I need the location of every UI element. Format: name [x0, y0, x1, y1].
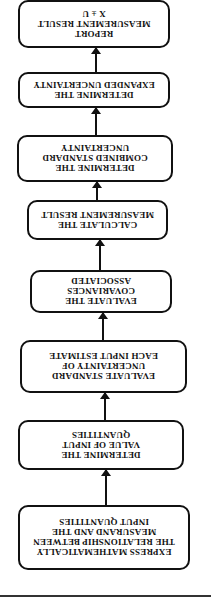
step-text: MEASUREMENT RESULT — [38, 19, 151, 29]
step-text: MEASUREMENT RESULT — [41, 210, 154, 220]
step-text: EVALUATE STANDARD — [52, 372, 155, 382]
step-determine-input-values: DETERMINE THE VALUE OF INPUT QUANTITIES — [18, 420, 184, 470]
step-text: DETERMINE THE — [54, 90, 133, 100]
step-evaluate-covariances: EVALUATE THE COVARIANCES ASSOCIATED — [30, 270, 172, 313]
step-text: VALUE OF INPUT — [62, 440, 140, 450]
step-text: EACH INPUT ESTIMATE — [49, 352, 158, 362]
flow-arrow — [95, 48, 97, 72]
flow-arrow — [95, 108, 97, 135]
step-text: THE RELATIONSHIP BETWEEN — [33, 538, 175, 548]
flow-arrow — [102, 313, 104, 340]
step-text: UNCERTAINTY OF — [62, 362, 145, 372]
step-text: MEASURAND AND THE — [52, 528, 156, 538]
step-report-result: REPORT MEASUREMENT RESULT X ± U — [18, 0, 170, 48]
flowchart-canvas: EXPRESS MATHEMATICALLY THE RELATIONSHIP … — [0, 0, 211, 605]
step-evaluate-standard-uncertainty: EVALUATE STANDARD UNCERTAINTY OF EACH IN… — [20, 340, 187, 393]
step-text: INPUT QUANTITIES — [59, 518, 149, 528]
step-text: EXPRESS MATHEMATICALLY — [37, 548, 172, 558]
step-expanded-uncertainty: DETERMINE THE EXPANDED UNCERTAINTY — [18, 72, 170, 108]
flow-arrow — [96, 182, 98, 200]
step-combined-uncertainty: DETERMINE THE COMBINED STANDARD UNCERTAI… — [17, 135, 173, 182]
step-text: X ± U — [82, 9, 105, 19]
step-text: DETERMINE THE — [61, 450, 140, 460]
step-text: CALCULATE THE — [58, 220, 138, 230]
step-text: EXPANDED UNCERTAINTY — [33, 80, 155, 90]
flow-arrow — [104, 393, 106, 420]
step-text: EVALUATE THE — [65, 297, 137, 307]
step-text: UNCERTAINTY — [61, 144, 129, 154]
step-calculate-result: CALCULATE THE MEASUREMENT RESULT — [27, 200, 168, 240]
flow-arrow — [99, 240, 101, 270]
step-text: COMBINED STANDARD — [42, 154, 148, 164]
step-text: REPORT — [75, 29, 113, 39]
step-text: ASSOCIATED — [71, 277, 131, 287]
step-text: QUANTITIES — [72, 430, 131, 440]
flow-arrow — [105, 470, 107, 505]
step-text: COVARIANCES — [67, 287, 135, 297]
step-express-relationship: EXPRESS MATHEMATICALLY THE RELATIONSHIP … — [18, 505, 190, 570]
separator-rule — [0, 595, 211, 597]
step-text: DETERMINE THE — [55, 164, 134, 174]
